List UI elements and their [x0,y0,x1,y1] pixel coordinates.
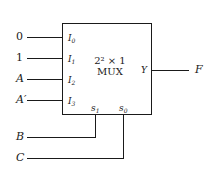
select-wire-b-horizontal [27,137,96,138]
select-wire-c-horizontal [27,158,124,159]
mux-type-label: MUX [85,66,135,77]
input-signal-2: A [16,73,24,84]
pin-label-i0: I0 [68,33,75,46]
pin-label-y: Y [141,65,147,76]
select-wire-b-vertical [95,115,96,138]
input-signal-0: 0 [16,31,23,42]
select-signal-c: C [16,152,24,163]
input-signal-1: 1 [16,52,23,63]
pin-label-i1: I1 [68,54,75,67]
select-signal-b: B [16,131,24,142]
input-signal-3: A′ [16,94,26,105]
select-wire-c-vertical [123,115,124,159]
pin-label-i2: I2 [68,75,75,88]
input-wire-2 [27,79,62,80]
mux-size-label: 2² × 1 [85,55,135,66]
output-wire [152,70,189,71]
output-signal-f: F [195,64,203,75]
mux-label: 2² × 1 MUX [85,55,135,77]
pin-label-i3: I3 [68,96,75,109]
input-wire-3 [27,100,62,101]
input-wire-0 [27,37,62,38]
input-wire-1 [27,58,62,59]
